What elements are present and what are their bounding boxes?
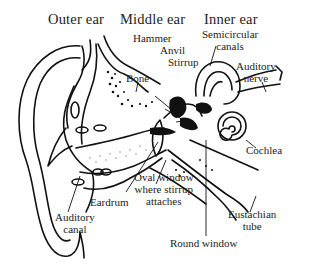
canal-shading — [89, 145, 146, 162]
label-auditory-nerve: Auditory nerve — [236, 60, 276, 84]
label-anvil: Anvil — [160, 44, 185, 56]
label-semicircular-canals: Semicircular canals — [202, 28, 258, 52]
header-inner-ear: Inner ear — [204, 12, 258, 27]
label-eardrum: Eardrum — [90, 196, 128, 208]
cochlea-spiral — [218, 112, 246, 140]
label-cochlea: Cochlea — [246, 144, 282, 156]
label-auditory-canal: Auditory canal — [55, 211, 95, 235]
leader-auditory-canal — [68, 176, 80, 212]
label-stirrup: Stirrup — [168, 56, 199, 68]
label-oval-window: Oval window where stirrup attaches — [134, 171, 194, 207]
skull-line — [98, 44, 148, 92]
label-round-window: Round window — [170, 237, 238, 249]
eardrum-shape — [153, 120, 163, 156]
header-middle-ear: Middle ear — [120, 12, 185, 27]
label-bone: Bone — [126, 72, 149, 84]
header-outer-ear: Outer ear — [48, 12, 104, 27]
label-eustachian-tube: Eustachian tube — [228, 208, 276, 232]
label-hammer: Hammer — [133, 32, 171, 44]
